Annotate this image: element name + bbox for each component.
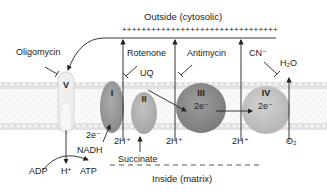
proton-I-label: 2H⁺: [114, 136, 131, 146]
complex-IV-label: IV: [254, 88, 278, 98]
water-label: H₂O: [280, 58, 297, 68]
nadh-label: NADH: [77, 145, 103, 155]
complex-V-label: V: [58, 80, 74, 90]
rotenone-label: Rotenone: [127, 48, 166, 58]
adp-label: ADP: [29, 166, 48, 176]
h-plus-label: H⁺: [61, 166, 73, 176]
oligomycin-label: Oligomycin: [16, 47, 61, 57]
oxygen-label: O₂: [286, 136, 297, 146]
outside-label: Outside (cytosolic): [144, 12, 222, 22]
ubiquinone-label: UQ: [140, 68, 154, 78]
electrons-I-label: 2e⁻: [86, 130, 101, 140]
complex-I-label: I: [102, 88, 122, 98]
etc-diagram: Outside (cytosolic) ++++++++++++++++++++…: [0, 0, 327, 194]
outside-charge: ++++++++++++++++++++++++++++++++: [122, 25, 278, 34]
complex-III-label: III: [189, 88, 213, 98]
inside-label: Inside (matrix): [152, 174, 212, 184]
complex-IV-electrons: 2e⁻: [258, 101, 273, 111]
complex-III-electrons: 2e⁻: [194, 101, 209, 111]
succinate-label: Succinate: [118, 154, 158, 164]
complex-II-label: II: [134, 94, 154, 104]
proton-IV-label: 2H⁺: [232, 136, 249, 146]
cyanide-label: CN⁻: [249, 48, 267, 58]
atp-label: ATP: [80, 166, 97, 176]
antimycin-label: Antimycin: [187, 48, 226, 58]
proton-return-arrow: [68, 38, 104, 70]
proton-III-label: 2H⁺: [166, 136, 183, 146]
inhibitor-lines: [45, 62, 280, 78]
